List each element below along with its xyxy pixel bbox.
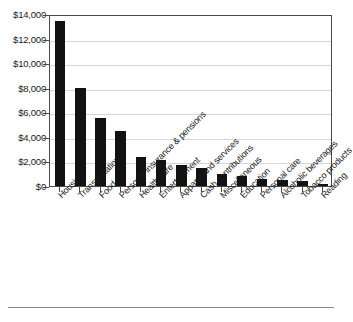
bottom-divider bbox=[8, 307, 334, 308]
